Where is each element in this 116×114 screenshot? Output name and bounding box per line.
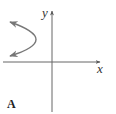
panel-label: A bbox=[7, 97, 16, 111]
x-axis-label: x bbox=[96, 61, 103, 76]
graph-figure: y x A bbox=[0, 0, 116, 114]
y-axis-label: y bbox=[40, 5, 48, 20]
parabola-curve bbox=[10, 22, 36, 56]
